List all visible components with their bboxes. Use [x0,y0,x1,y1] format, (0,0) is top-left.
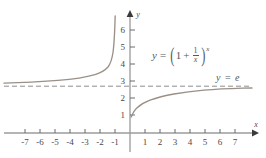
y-tick-label: 6 [121,25,126,35]
y-tick-label: 3 [121,76,126,86]
curve-right-branch [131,88,252,117]
y-axis-arrow-icon [127,10,134,17]
x-tick-label: -3 [81,137,89,147]
x-tick-label: 3 [173,137,178,147]
x-tick-label: -7 [21,137,29,147]
y-tick-label: 5 [121,42,126,52]
x-tick-label: -5 [51,137,59,147]
x-axis-arrow-icon [252,130,259,137]
x-tick-label: 2 [158,137,163,147]
x-tick-label: 4 [188,137,193,147]
x-tick-label: 7 [233,137,238,147]
y-tick-label: 4 [121,59,126,69]
y-tick-label: 1 [121,110,126,120]
x-tick-label: 1 [143,137,148,147]
plot-area: -7 -6 -5 -4 -3 -2 -1 1 2 3 4 5 6 7 1 2 3… [0,0,266,158]
x-tick-label: 5 [203,137,208,147]
y-axis-tick-labels: 1 2 3 4 5 6 [121,25,126,120]
x-tick-label: -4 [66,137,74,147]
x-tick-label: -6 [36,137,44,147]
y-axis-ticks [130,30,135,115]
x-tick-label: 6 [218,137,223,147]
x-axis-name-label: x [253,120,258,129]
graph-figure: -7 -6 -5 -4 -3 -2 -1 1 2 3 4 5 6 7 1 2 3… [0,0,266,158]
y-tick-label: 2 [121,93,126,103]
curve-left-branch [4,16,115,83]
x-tick-label: -1 [111,137,119,147]
x-tick-label: -2 [96,137,104,147]
y-axis-name-label: y [135,10,140,19]
